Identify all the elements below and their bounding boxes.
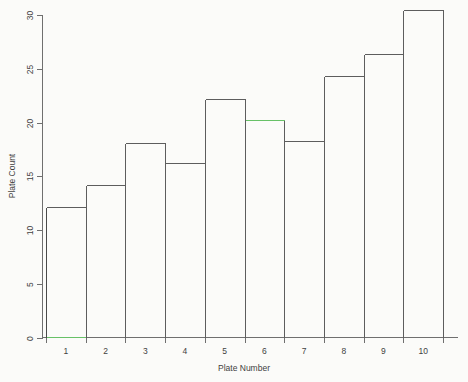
- y-axis-tick-label: 5: [25, 282, 35, 287]
- chart-canvas: 051015202530 Plate Count 12345678910 Pla…: [0, 0, 468, 382]
- y-axis-tick-label: 15: [25, 172, 35, 182]
- y-axis-title: Plate Count: [7, 153, 17, 198]
- x-axis-tick-label: 4: [183, 346, 188, 356]
- y-axis-tick-label: 20: [25, 119, 35, 129]
- x-axis-tick-label: 1: [63, 346, 68, 356]
- x-axis-title: Plate Number: [218, 363, 270, 373]
- x-axis-tick-label: 3: [143, 346, 148, 356]
- chart-background: [0, 0, 468, 382]
- y-axis-tick-label: 10: [25, 226, 35, 236]
- x-axis-tick-label: 5: [222, 346, 227, 356]
- y-axis-tick-label: 0: [25, 336, 35, 341]
- x-axis-tick-label: 8: [341, 346, 346, 356]
- y-axis-tick-label: 25: [25, 65, 35, 75]
- x-axis-tick-label: 7: [302, 346, 307, 356]
- plate-count-histogram: 051015202530 Plate Count 12345678910 Pla…: [0, 0, 468, 382]
- y-axis-tick-label: 30: [25, 11, 35, 21]
- x-axis-tick-label: 6: [262, 346, 267, 356]
- x-axis-tick-label: 2: [103, 346, 108, 356]
- x-axis-tick-label: 9: [381, 346, 386, 356]
- x-axis-tick-label: 10: [418, 346, 428, 356]
